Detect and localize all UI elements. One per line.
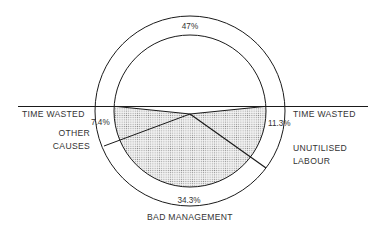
label-causes: CAUSES	[40, 140, 90, 152]
label-other: OTHER	[40, 127, 90, 139]
pct-top-label: 47%	[176, 22, 204, 32]
pct-unutilised-labour: 11.3%	[268, 119, 291, 129]
pct-bad-management: 34.3%	[172, 196, 206, 206]
label-bad-management: BAD MANAGEMENT	[130, 211, 250, 223]
pct-other-causes: 7.4%	[91, 118, 110, 128]
label-labour: LABOUR	[293, 155, 330, 167]
label-unutilised: UNUTILISED	[293, 142, 347, 154]
label-time-wasted-left: TIME WASTED	[22, 108, 85, 120]
label-time-wasted-right: TIME WASTED	[293, 108, 356, 120]
